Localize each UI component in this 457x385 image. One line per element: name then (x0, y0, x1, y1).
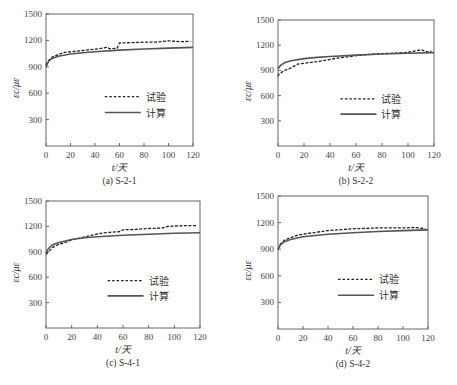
y-tick-label: 900 (29, 62, 43, 72)
series-calculated (46, 47, 193, 66)
plot-frame (46, 201, 200, 328)
y-tick-label: 600 (261, 91, 275, 101)
x-tick-label: 20 (67, 332, 77, 342)
legend-experiment: 试验 (149, 275, 169, 287)
y-tick-label: 1500 (24, 9, 43, 19)
x-tick-label: 20 (66, 150, 76, 160)
y-tick-label: 300 (261, 297, 275, 307)
y-axis-label: εc/με (10, 78, 21, 98)
chart-panel-c: 02040608010012030060090012001500t/天εc/με… (10, 196, 207, 369)
x-tick-label: 20 (299, 333, 309, 343)
panel-caption: (a) S-2-1 (102, 176, 136, 187)
plot-frame (278, 196, 428, 329)
x-tick-label: 80 (374, 333, 384, 343)
legend-experiment: 试验 (146, 91, 166, 103)
y-tick-label: 600 (29, 88, 43, 98)
y-tick-label: 1200 (256, 40, 275, 50)
x-axis-label: t/天 (112, 162, 129, 173)
panel-caption: (c) S-4-1 (106, 358, 140, 369)
x-tick-label: 120 (193, 332, 207, 342)
x-tick-label: 80 (144, 332, 154, 342)
series-calculated (46, 233, 200, 253)
x-tick-label: 120 (427, 150, 441, 160)
x-tick-label: 40 (326, 150, 336, 160)
x-tick-label: 100 (168, 332, 182, 342)
y-axis-label: εc/με (242, 81, 253, 101)
x-tick-label: 60 (349, 333, 359, 343)
x-tick-label: 100 (401, 150, 415, 160)
x-tick-label: 0 (276, 333, 281, 343)
panel-caption: (b) S-2-2 (339, 176, 374, 187)
x-tick-label: 80 (140, 150, 150, 160)
legend-calculated: 计算 (149, 290, 169, 302)
x-tick-label: 0 (44, 332, 49, 342)
x-tick-label: 0 (276, 150, 281, 160)
panel-caption: (d) S-4-2 (336, 359, 371, 370)
y-tick-label: 300 (29, 115, 43, 125)
chart-panel-d: 02040608010012030060090012001500t/天εc/με… (242, 191, 435, 370)
y-tick-label: 1200 (24, 35, 43, 45)
plot-frame (46, 14, 193, 146)
x-tick-label: 120 (421, 333, 435, 343)
x-tick-label: 100 (396, 333, 410, 343)
x-tick-label: 40 (93, 332, 103, 342)
x-axis-label: t/天 (348, 162, 365, 173)
plot-frame (278, 20, 434, 146)
y-axis-label: εc/με (242, 260, 253, 280)
series-calculated (278, 53, 434, 69)
chart-panel-a: 02040608010012030060090012001500t/天εc/με… (10, 9, 200, 187)
y-tick-label: 1200 (256, 218, 275, 228)
y-tick-label: 900 (261, 65, 275, 75)
x-axis-label: t/天 (115, 344, 132, 355)
y-tick-label: 1200 (24, 221, 43, 231)
legend-calculated: 计算 (379, 289, 399, 301)
legend-calculated: 计算 (146, 107, 166, 119)
y-tick-label: 900 (29, 247, 43, 257)
x-tick-label: 60 (115, 150, 125, 160)
legend-experiment: 试验 (381, 93, 401, 105)
y-tick-label: 1500 (256, 191, 275, 201)
chart-panel-b: 02040608010012030060090012001500t/天εc/με… (242, 15, 441, 187)
y-tick-label: 1500 (24, 196, 43, 206)
legend-experiment: 试验 (379, 273, 399, 285)
series-experiment (46, 41, 191, 65)
legend-calculated: 计算 (381, 108, 401, 120)
x-tick-label: 120 (186, 150, 200, 160)
x-tick-label: 100 (162, 150, 176, 160)
series-calculated (278, 230, 428, 249)
y-tick-label: 300 (261, 116, 275, 126)
x-tick-label: 60 (119, 332, 129, 342)
x-tick-label: 80 (378, 150, 388, 160)
y-tick-label: 600 (29, 272, 43, 282)
y-tick-label: 600 (261, 271, 275, 281)
y-tick-label: 1500 (256, 15, 275, 25)
x-tick-label: 40 (324, 333, 334, 343)
x-tick-label: 60 (352, 150, 362, 160)
y-axis-label: εc/με (10, 262, 21, 282)
figure: 02040608010012030060090012001500t/天εc/με… (0, 0, 457, 385)
y-tick-label: 900 (261, 244, 275, 254)
x-tick-label: 0 (44, 150, 49, 160)
x-tick-label: 20 (300, 150, 310, 160)
x-tick-label: 40 (91, 150, 101, 160)
y-tick-label: 300 (29, 298, 43, 308)
x-axis-label: t/天 (345, 345, 362, 356)
